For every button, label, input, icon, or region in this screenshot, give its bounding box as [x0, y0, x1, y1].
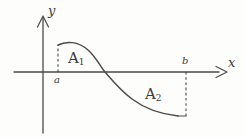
- x-axis-label: x: [228, 56, 235, 69]
- sketch-drawing: [0, 0, 244, 137]
- figure-canvas: y x a b A1 A2: [0, 0, 244, 137]
- region-label-a1-subscript: 1: [79, 57, 85, 67]
- region-label-a2-subscript: 2: [156, 93, 162, 103]
- tick-label-a: a: [54, 75, 60, 85]
- region-label-a2: A2: [145, 87, 162, 103]
- y-axis: [38, 16, 49, 133]
- region-label-a2-base: A: [145, 85, 156, 103]
- tick-label-b: b: [182, 56, 188, 66]
- x-axis: [14, 67, 227, 78]
- region-label-a1-base: A: [68, 49, 79, 67]
- region-label-a1: A1: [68, 51, 85, 67]
- y-axis-label: y: [48, 4, 55, 17]
